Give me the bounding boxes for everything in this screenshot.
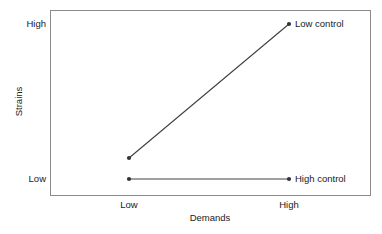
series-label-high-control: High control <box>295 173 346 184</box>
series-label-low-control: Low control <box>295 18 344 29</box>
x-axis-title: Demands <box>150 212 270 223</box>
x-axis-tick-low: Low <box>99 199 159 210</box>
chart-screenshot: High Low Strains Low High Demands Low co… <box>0 0 382 234</box>
y-axis-tick-low: Low <box>29 173 46 184</box>
y-axis-tick-high: High <box>26 18 46 29</box>
x-axis-tick-high: High <box>259 199 319 210</box>
y-axis-title: Strains <box>13 62 24 142</box>
plot-area-frame <box>50 10 371 196</box>
